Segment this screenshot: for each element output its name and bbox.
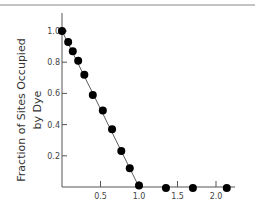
axes: 0.20.40.60.81.00.51.01.52.0 [47,13,235,201]
data-point [58,27,66,35]
y-tick-label: 0.8 [47,58,60,67]
y-axis-label: Fraction of Sites Occupiedby Dye [15,38,44,181]
x-tick-label: 1.0 [133,192,146,201]
data-point [162,184,170,192]
data-point [89,91,97,99]
y-axis-label-line-1: Fraction of Sites Occupied [15,38,28,181]
data-point [69,47,77,55]
data-point [126,164,134,172]
y-tick-label: 0.4 [47,121,60,130]
x-tick-label: 0.5 [94,192,107,201]
data-point [64,38,72,46]
data-point [117,147,125,155]
data-point [189,184,197,192]
x-tick-label: 2.0 [210,192,223,201]
y-tick-label: 0.2 [47,152,60,161]
data-points [58,27,231,192]
data-point [99,107,107,115]
x-tick-label: 1.5 [171,192,184,201]
data-point [223,184,231,192]
chart: 0.20.40.60.81.00.51.01.52.0 Fraction of … [0,0,255,211]
data-point [108,125,116,133]
y-axis-label-line-2: by Dye [31,90,44,129]
data-point [135,181,143,189]
y-tick-label: 0.6 [47,89,60,98]
data-point [80,71,88,79]
data-point [74,57,82,65]
